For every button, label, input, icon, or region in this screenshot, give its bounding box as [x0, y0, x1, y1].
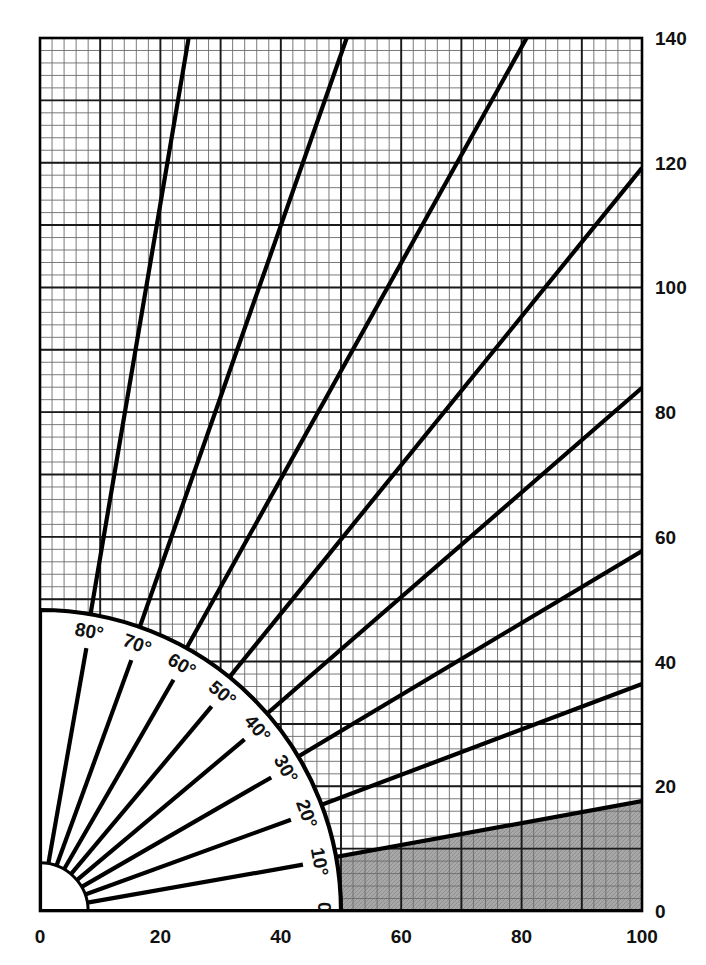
y-tick-label: 0 — [655, 901, 666, 922]
y-tick-label: 60 — [655, 527, 676, 548]
y-tick-label: 140 — [655, 28, 687, 49]
y-tick-label: 40 — [655, 652, 676, 673]
y-tick-label: 100 — [655, 277, 687, 298]
x-tick-label: 20 — [150, 926, 171, 947]
protractor-nomograph: 0°10°20°30°40°50°60°70°80°02040608010002… — [0, 0, 706, 965]
chart-root: 0°10°20°30°40°50°60°70°80°02040608010002… — [0, 0, 706, 965]
x-tick-label: 0 — [35, 926, 46, 947]
y-tick-label: 20 — [655, 776, 676, 797]
plot-area: 0°10°20°30°40°50°60°70°80° — [40, 38, 642, 920]
x-tick-label: 60 — [391, 926, 412, 947]
x-tick-label: 80 — [511, 926, 532, 947]
x-tick-label: 40 — [270, 926, 291, 947]
x-tick-label: 100 — [626, 926, 658, 947]
y-tick-label: 80 — [655, 402, 676, 423]
y-tick-label: 120 — [655, 153, 687, 174]
